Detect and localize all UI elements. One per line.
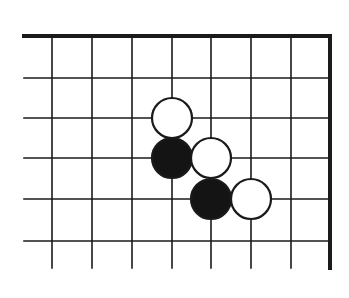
go-board-diagram bbox=[0, 0, 349, 298]
white-stone bbox=[231, 179, 271, 219]
white-stone bbox=[152, 98, 192, 138]
black-stone bbox=[191, 179, 231, 219]
white-stone bbox=[191, 138, 231, 178]
black-stone bbox=[152, 138, 192, 178]
